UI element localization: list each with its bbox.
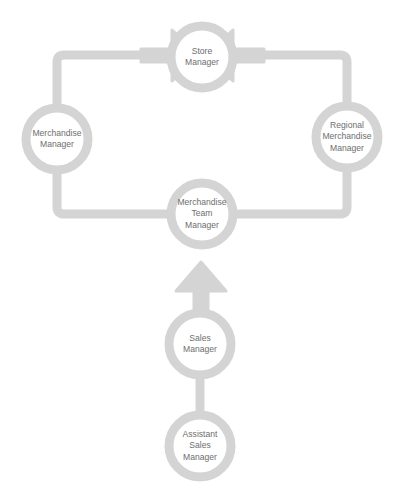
node-label-merchandise-manager: Merchandise [32, 128, 81, 138]
node-merchandise-manager[interactable]: MerchandiseManager [26, 108, 88, 170]
node-label-regional-merchandise-manager: Manager [330, 143, 364, 153]
connector-merchandise-manager-to-team-manager [57, 165, 174, 214]
node-merchandise-team-manager[interactable]: MerchandiseTeamManager [171, 183, 233, 245]
node-assistant-sales-manager[interactable]: AssistantSalesManager [169, 415, 231, 477]
node-label-assistant-sales-manager: Assistant [183, 429, 218, 439]
node-label-store-manager: Manager [185, 57, 219, 67]
node-label-merchandise-team-manager: Team [191, 208, 212, 218]
node-label-merchandise-team-manager: Manager [185, 220, 219, 230]
node-regional-merchandise-manager[interactable]: RegionalMerchandiseManager [316, 106, 378, 168]
node-label-regional-merchandise-manager: Regional [330, 120, 364, 130]
connector-regional-merchandise-manager-to-team-manager [230, 163, 347, 214]
node-label-assistant-sales-manager: Sales [189, 440, 211, 450]
node-store-manager[interactable]: StoreManager [171, 26, 233, 88]
node-label-merchandise-team-manager: Merchandise [177, 197, 226, 207]
node-label-merchandise-manager: Manager [40, 139, 74, 149]
node-label-assistant-sales-manager: Manager [183, 452, 217, 462]
connector-merchandise-manager-to-store-manager [57, 55, 160, 113]
node-label-regional-merchandise-manager: Merchandise [322, 131, 371, 141]
node-label-sales-manager: Manager [183, 344, 217, 354]
org-chart-diagram: StoreManagerMerchandiseManagerRegionalMe… [0, 0, 401, 498]
node-sales-manager[interactable]: SalesManager [169, 313, 231, 375]
node-label-sales-manager: Sales [189, 333, 211, 343]
node-label-store-manager: Store [192, 46, 213, 56]
